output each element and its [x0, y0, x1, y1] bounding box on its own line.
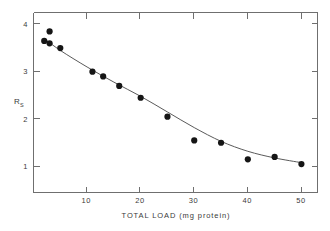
y-tick-label-2: 2: [23, 115, 28, 124]
x-tick-label-20: 20: [135, 196, 145, 205]
x-tick-label-30: 30: [189, 196, 199, 205]
data-point: [138, 95, 144, 101]
y-axis-ticks: [34, 24, 40, 166]
y-tick-label-1: 1: [23, 162, 28, 171]
y-axis-ticks-right: [312, 24, 318, 166]
y-tick-label-3: 3: [23, 67, 28, 76]
y-tick-labels: 1 2 3 4: [23, 20, 28, 171]
data-point: [245, 156, 251, 162]
data-point: [89, 69, 95, 75]
data-point: [46, 28, 52, 34]
y-axis-title: R S: [14, 97, 24, 108]
figure-panel: 10 20 30 40 50 1 2 3 4 R S TOTAL LOAD (m…: [0, 0, 330, 231]
data-point: [272, 154, 278, 160]
x-axis-ticks-top: [86, 13, 301, 19]
data-point: [164, 114, 170, 120]
x-tick-labels: 10 20 30 40 50: [81, 196, 305, 205]
data-point: [57, 45, 63, 51]
x-tick-label-40: 40: [243, 196, 253, 205]
axis-frame: [34, 13, 318, 193]
data-point: [191, 137, 197, 143]
data-point: [100, 73, 106, 79]
data-point: [218, 140, 224, 146]
y-axis-title-subscript: S: [20, 102, 24, 108]
y-tick-label-4: 4: [23, 20, 28, 29]
x-axis-title: TOTAL LOAD (mg protein): [122, 211, 231, 220]
x-tick-label-50: 50: [296, 196, 306, 205]
data-point: [298, 161, 304, 167]
data-point: [46, 40, 52, 46]
data-point: [41, 38, 47, 44]
data-point: [116, 83, 122, 89]
plot-border: [34, 13, 318, 193]
x-axis-ticks: [86, 187, 301, 193]
data-points-group: [41, 28, 304, 167]
fitted-curve: [44, 39, 301, 163]
chart-svg: 10 20 30 40 50 1 2 3 4 R S TOTAL LOAD (m…: [0, 0, 330, 231]
x-tick-label-10: 10: [81, 196, 91, 205]
